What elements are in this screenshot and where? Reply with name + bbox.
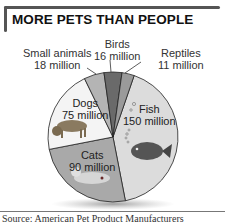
source-divider (0, 211, 225, 212)
pie-chart (0, 0, 225, 222)
label-birds: Birds 16 million (94, 38, 140, 62)
leader-reptiles (125, 62, 141, 73)
label-birds-value: 16 million (94, 50, 140, 62)
label-reptiles-name: Reptiles (158, 47, 204, 59)
label-birds-name: Birds (94, 38, 140, 50)
label-fish-name: Fish (123, 103, 176, 115)
pie-slices (48, 72, 178, 202)
label-fish-value: 150 million (123, 115, 176, 127)
label-dogs-value: 75 million (62, 109, 108, 121)
label-cats-value: 90 million (69, 161, 115, 173)
label-cats: Cats 90 million (69, 149, 115, 173)
label-reptiles: Reptiles 11 million (158, 47, 204, 71)
label-fish: Fish 150 million (123, 103, 176, 127)
label-dogs: Dogs 75 million (62, 97, 108, 121)
label-dogs-name: Dogs (62, 97, 108, 109)
label-small-animals-name: Small animals (23, 47, 91, 59)
label-small-animals-value: 18 million (23, 59, 91, 71)
label-reptiles-value: 11 million (158, 59, 204, 71)
label-cats-name: Cats (69, 149, 115, 161)
label-small-animals: Small animals 18 million (23, 47, 91, 71)
source-text: Source: American Pet Product Manufacture… (2, 213, 184, 222)
